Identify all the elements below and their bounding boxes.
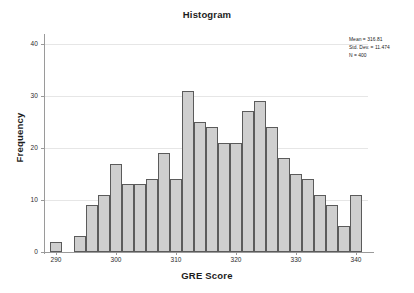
histogram-bar (86, 205, 98, 252)
gridline-y-40 (44, 44, 368, 45)
histogram-bar (170, 179, 182, 252)
histogram-bar (98, 195, 110, 252)
stat-mean: Mean = 316.81 (349, 36, 413, 44)
x-tick-label-330: 330 (281, 256, 311, 263)
histogram-bar (254, 101, 266, 252)
y-tick-label-0: 0 (10, 248, 38, 255)
y-tick-mark-0 (41, 252, 44, 253)
chart-title: Histogram (0, 9, 414, 20)
statistics-annotation: Mean = 316.81 Std. Dev. = 11.474 N = 400 (349, 36, 413, 60)
x-tick-mark-310 (176, 252, 177, 255)
histogram-bar (350, 195, 362, 252)
y-tick-label-40: 40 (10, 40, 38, 47)
y-tick-mark-20 (41, 148, 44, 149)
x-tick-mark-300 (116, 252, 117, 255)
x-tick-label-340: 340 (341, 256, 371, 263)
x-tick-mark-330 (296, 252, 297, 255)
histogram-bar (206, 127, 218, 252)
histogram-bar (182, 91, 194, 252)
histogram-bar (158, 153, 170, 252)
histogram-bar (218, 143, 230, 252)
histogram-bar (230, 143, 242, 252)
histogram-bar (134, 184, 146, 252)
histogram-chart: Histogram 010203040 290300310320330340 F… (0, 0, 414, 293)
y-axis-line (44, 34, 45, 254)
x-tick-mark-340 (356, 252, 357, 255)
histogram-bar (50, 242, 62, 252)
y-tick-mark-40 (41, 44, 44, 45)
histogram-bar (242, 111, 254, 252)
histogram-bar (314, 195, 326, 252)
x-tick-mark-290 (56, 252, 57, 255)
stat-std-dev: Std. Dev. = 11.474 (349, 44, 413, 52)
y-tick-label-10: 10 (10, 196, 38, 203)
histogram-bar (194, 122, 206, 252)
histogram-bar (110, 164, 122, 252)
x-tick-label-300: 300 (101, 256, 131, 263)
x-axis-title: GRE Score (0, 270, 414, 281)
histogram-bar (338, 226, 350, 252)
x-tick-label-320: 320 (221, 256, 251, 263)
y-tick-mark-30 (41, 96, 44, 97)
histogram-bar (278, 158, 290, 252)
x-tick-mark-320 (236, 252, 237, 255)
histogram-bar (302, 179, 314, 252)
stat-n: N = 400 (349, 52, 413, 60)
y-axis-title: Frequency (14, 83, 25, 193)
x-tick-label-290: 290 (41, 256, 71, 263)
histogram-bar (326, 205, 338, 252)
histogram-bar (290, 174, 302, 252)
histogram-bar (146, 179, 158, 252)
gridline-y-30 (44, 96, 368, 97)
histogram-bar (122, 184, 134, 252)
histogram-bar (266, 127, 278, 252)
histogram-bar (74, 236, 86, 252)
x-tick-label-310: 310 (161, 256, 191, 263)
y-tick-mark-10 (41, 200, 44, 201)
x-axis-line (44, 252, 374, 253)
